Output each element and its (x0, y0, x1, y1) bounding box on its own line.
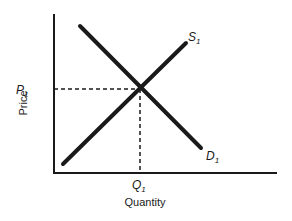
supply-curve (63, 43, 186, 164)
x-axis-title: Quantity (125, 196, 166, 208)
demand-label: D1 (206, 149, 219, 165)
supply-label: S1 (188, 30, 200, 46)
y-axis-title: Price (17, 90, 29, 115)
quantity-equilibrium-label: Q1 (132, 178, 146, 194)
supply-demand-diagram: S1 D1 P1 Q1 Quantity Price (0, 0, 292, 221)
